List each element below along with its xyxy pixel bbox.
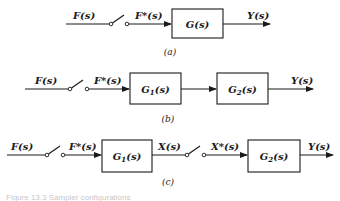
input-label: F(s) <box>72 10 95 21</box>
diagram-c: F(s) F*(s) G1(s) X(s) X*(s) G2(s) Y(s) (… <box>7 140 333 187</box>
sampled-label: F*(s) <box>93 75 122 86</box>
figure-caption: Figure 13.3 Sampler configurations <box>6 193 131 201</box>
input-label: F(s) <box>34 75 57 86</box>
output-label: Y(s) <box>247 10 270 21</box>
caption-a: (a) <box>164 47 177 57</box>
caption-b: (b) <box>162 114 175 124</box>
sampler-switch-icon <box>109 15 129 26</box>
caption-c: (c) <box>162 177 175 187</box>
diagram-a: F(s) F*(s) G(s) Y(s) (a) <box>66 9 270 57</box>
block-diagram-canvas: F(s) F*(s) G(s) Y(s) (a) F(s) F*(s) G1(s… <box>0 0 340 201</box>
output-label: Y(s) <box>291 75 314 86</box>
sampler-switch-icon <box>68 80 89 91</box>
intermediate-sampled-label: X*(s) <box>210 141 239 152</box>
input-label: F(s) <box>10 141 33 152</box>
diagram-b: F(s) F*(s) G1(s) G2(s) Y(s) (b) <box>25 73 314 124</box>
output-label: Y(s) <box>308 141 331 152</box>
g-block-label: G(s) <box>186 19 210 30</box>
sampler-switch-icon <box>45 146 65 157</box>
intermediate-label: X(s) <box>157 141 181 152</box>
sampler-switch-icon <box>185 146 206 157</box>
sampled-label: F*(s) <box>68 141 97 152</box>
sampled-label: F*(s) <box>134 10 163 21</box>
